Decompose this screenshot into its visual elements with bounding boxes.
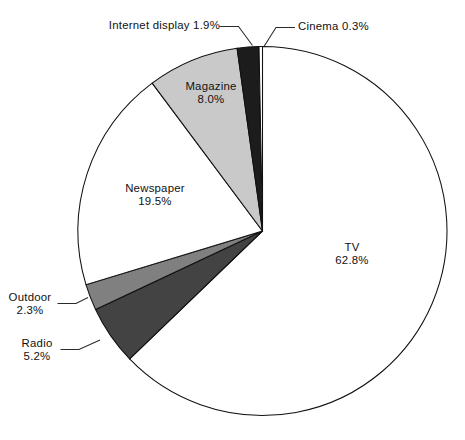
slice-label-radio-name: Radio [14, 337, 60, 350]
slice-label-magazine-name: Magazine [165, 80, 257, 93]
slice-label-tv: TV 62.8% [309, 241, 395, 268]
slice-label-newspaper: Newspaper 19.5% [104, 182, 206, 209]
slice-label-tv-name: TV [309, 241, 395, 254]
slice-label-magazine: Magazine 8.0% [165, 80, 257, 107]
pie-slices-group [78, 46, 447, 415]
leader-line-cinema [264, 28, 295, 47]
slice-label-outdoor-value: 2.3% [2, 304, 58, 317]
slice-label-magazine-value: 8.0% [165, 93, 257, 106]
slice-label-internet-display-text: Internet display 1.9% [22, 19, 220, 32]
pie-chart-canvas [0, 0, 465, 440]
slice-label-outdoor: Outdoor 2.3% [2, 291, 58, 318]
leader-line-outdoor [58, 298, 89, 304]
slice-label-cinema: Cinema 0.3% [298, 20, 448, 33]
leader-line-internet-display [220, 27, 253, 46]
slice-label-outdoor-name: Outdoor [2, 291, 58, 304]
slice-label-newspaper-value: 19.5% [104, 195, 206, 208]
slice-label-newspaper-name: Newspaper [104, 182, 206, 195]
slice-label-cinema-text: Cinema 0.3% [298, 20, 448, 33]
slice-label-tv-value: 62.8% [309, 254, 395, 267]
leader-line-radio [61, 340, 101, 350]
pie-chart-figure: Internet display 1.9% Cinema 0.3% Magazi… [0, 0, 465, 440]
slice-label-internet-display: Internet display 1.9% [22, 19, 220, 32]
slice-label-radio-value: 5.2% [14, 350, 60, 363]
slice-label-radio: Radio 5.2% [14, 337, 60, 364]
